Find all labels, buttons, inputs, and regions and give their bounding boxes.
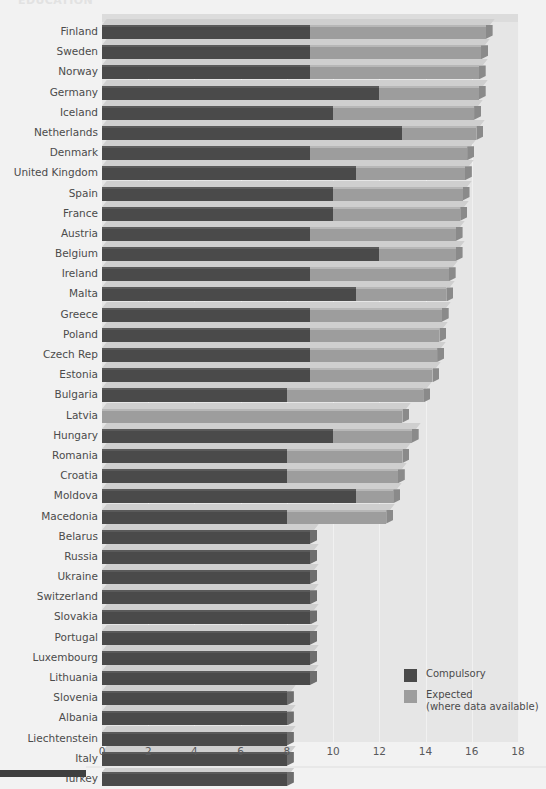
bar-segment-cap bbox=[102, 227, 310, 229]
bar-segment-expected bbox=[333, 187, 462, 201]
bar-stack bbox=[102, 429, 412, 443]
bar-stack bbox=[102, 469, 398, 483]
bar-segment-cap bbox=[102, 711, 287, 713]
bar-stack bbox=[102, 328, 439, 342]
category-label: Slovenia bbox=[0, 691, 98, 703]
bar-segment-cap bbox=[102, 348, 310, 350]
bar-segment-expected bbox=[310, 65, 479, 79]
legend-swatch-compulsory bbox=[404, 669, 417, 682]
bar-segment-compulsory bbox=[102, 388, 287, 402]
category-label: Czech Rep bbox=[0, 348, 98, 360]
category-label: Netherlands bbox=[0, 126, 98, 138]
bar-segment-cap bbox=[102, 732, 287, 734]
bar-segment-expected bbox=[379, 247, 455, 261]
bar-stack bbox=[102, 449, 402, 463]
bar-segment-expected bbox=[287, 469, 398, 483]
bar-end-cap bbox=[310, 590, 317, 604]
bar-segment-compulsory bbox=[102, 126, 402, 140]
bar-end-cap bbox=[287, 711, 294, 725]
category-label: Macedonia bbox=[0, 510, 98, 522]
bar-segment-cap bbox=[310, 65, 479, 67]
chart-legend: Compulsory Expected (where data availabl… bbox=[404, 668, 539, 722]
x-tick-label: 4 bbox=[191, 745, 198, 757]
bar-segment-expected bbox=[287, 449, 403, 463]
bar-segment-cap bbox=[102, 25, 310, 27]
bar-segment-compulsory bbox=[102, 631, 310, 645]
bar-end-cap bbox=[310, 530, 317, 544]
bar-segment-cap bbox=[102, 469, 287, 471]
category-label: Norway bbox=[0, 65, 98, 77]
bar-segment-compulsory bbox=[102, 711, 287, 725]
bar-stack bbox=[102, 187, 463, 201]
bar-segment-expected bbox=[333, 106, 474, 120]
bar-stack bbox=[102, 65, 479, 79]
bar-end-cap bbox=[310, 671, 317, 685]
bar-end-cap bbox=[386, 510, 393, 524]
bar-segment-compulsory bbox=[102, 287, 356, 301]
category-label: Hungary bbox=[0, 429, 98, 441]
bar-segment-compulsory bbox=[102, 590, 310, 604]
bar-segment-compulsory bbox=[102, 429, 333, 443]
bar-stack bbox=[102, 550, 310, 564]
x-tick-label: 0 bbox=[99, 745, 106, 757]
bar-end-cap bbox=[432, 368, 439, 382]
x-tick-label: 14 bbox=[419, 745, 432, 757]
bar-segment-cap bbox=[102, 671, 310, 673]
bar-stack bbox=[102, 166, 465, 180]
bar-stack bbox=[102, 590, 310, 604]
bar-segment-cap bbox=[102, 510, 287, 512]
category-label: Austria bbox=[0, 227, 98, 239]
bar-segment-expected bbox=[356, 489, 393, 503]
bar-segment-cap bbox=[356, 287, 446, 289]
bar-end-cap bbox=[412, 429, 419, 443]
bar-segment-cap bbox=[102, 187, 333, 189]
bar-end-cap bbox=[460, 207, 467, 221]
category-label: France bbox=[0, 207, 98, 219]
bar-segment-cap bbox=[287, 510, 386, 512]
category-label: United Kingdom bbox=[0, 166, 98, 178]
bar-segment-cap bbox=[102, 368, 310, 370]
category-label: Estonia bbox=[0, 368, 98, 380]
category-label: Russia bbox=[0, 550, 98, 562]
bar-end-cap bbox=[467, 146, 474, 160]
bar-segment-cap bbox=[102, 691, 287, 693]
bar-segment-compulsory bbox=[102, 570, 310, 584]
bar-segment-expected bbox=[310, 227, 456, 241]
bar-segment-expected bbox=[333, 207, 460, 221]
category-label: Moldova bbox=[0, 489, 98, 501]
bar-segment-cap bbox=[102, 651, 310, 653]
bar-stack bbox=[102, 126, 476, 140]
category-label: Slovakia bbox=[0, 610, 98, 622]
bar-segment-cap bbox=[102, 328, 310, 330]
bar-stack bbox=[102, 610, 310, 624]
legend-item-compulsory: Compulsory bbox=[404, 668, 539, 681]
bar-end-cap bbox=[402, 409, 409, 423]
bar-segment-cap bbox=[287, 388, 423, 390]
x-axis-ticks: 024681012141618 bbox=[0, 745, 546, 765]
bar-segment-compulsory bbox=[102, 146, 310, 160]
bar-end-cap bbox=[310, 610, 317, 624]
bar-segment-expected bbox=[287, 510, 386, 524]
category-label: Sweden bbox=[0, 45, 98, 57]
bar-segment-cap bbox=[379, 86, 478, 88]
category-label: Denmark bbox=[0, 146, 98, 158]
bar-end-cap bbox=[393, 489, 400, 503]
bar-segment-expected bbox=[310, 45, 481, 59]
bar-segment-compulsory bbox=[102, 247, 379, 261]
bar-end-cap bbox=[423, 388, 430, 402]
bar-segment-cap bbox=[310, 348, 437, 350]
category-label: Ukraine bbox=[0, 570, 98, 582]
bar-end-cap bbox=[481, 45, 488, 59]
bar-stack bbox=[102, 691, 287, 705]
x-tick-label: 2 bbox=[145, 745, 152, 757]
bar-stack bbox=[102, 368, 432, 382]
bar-stack bbox=[102, 287, 446, 301]
bar-segment-cap bbox=[102, 65, 310, 67]
bar-segment-cap bbox=[102, 530, 310, 532]
category-label: Luxembourg bbox=[0, 651, 98, 663]
bar-segment-expected bbox=[402, 126, 476, 140]
legend-sublabel-expected: (where data available) bbox=[426, 701, 539, 714]
category-label: Liechtenstein bbox=[0, 732, 98, 744]
bar-stack bbox=[102, 106, 474, 120]
